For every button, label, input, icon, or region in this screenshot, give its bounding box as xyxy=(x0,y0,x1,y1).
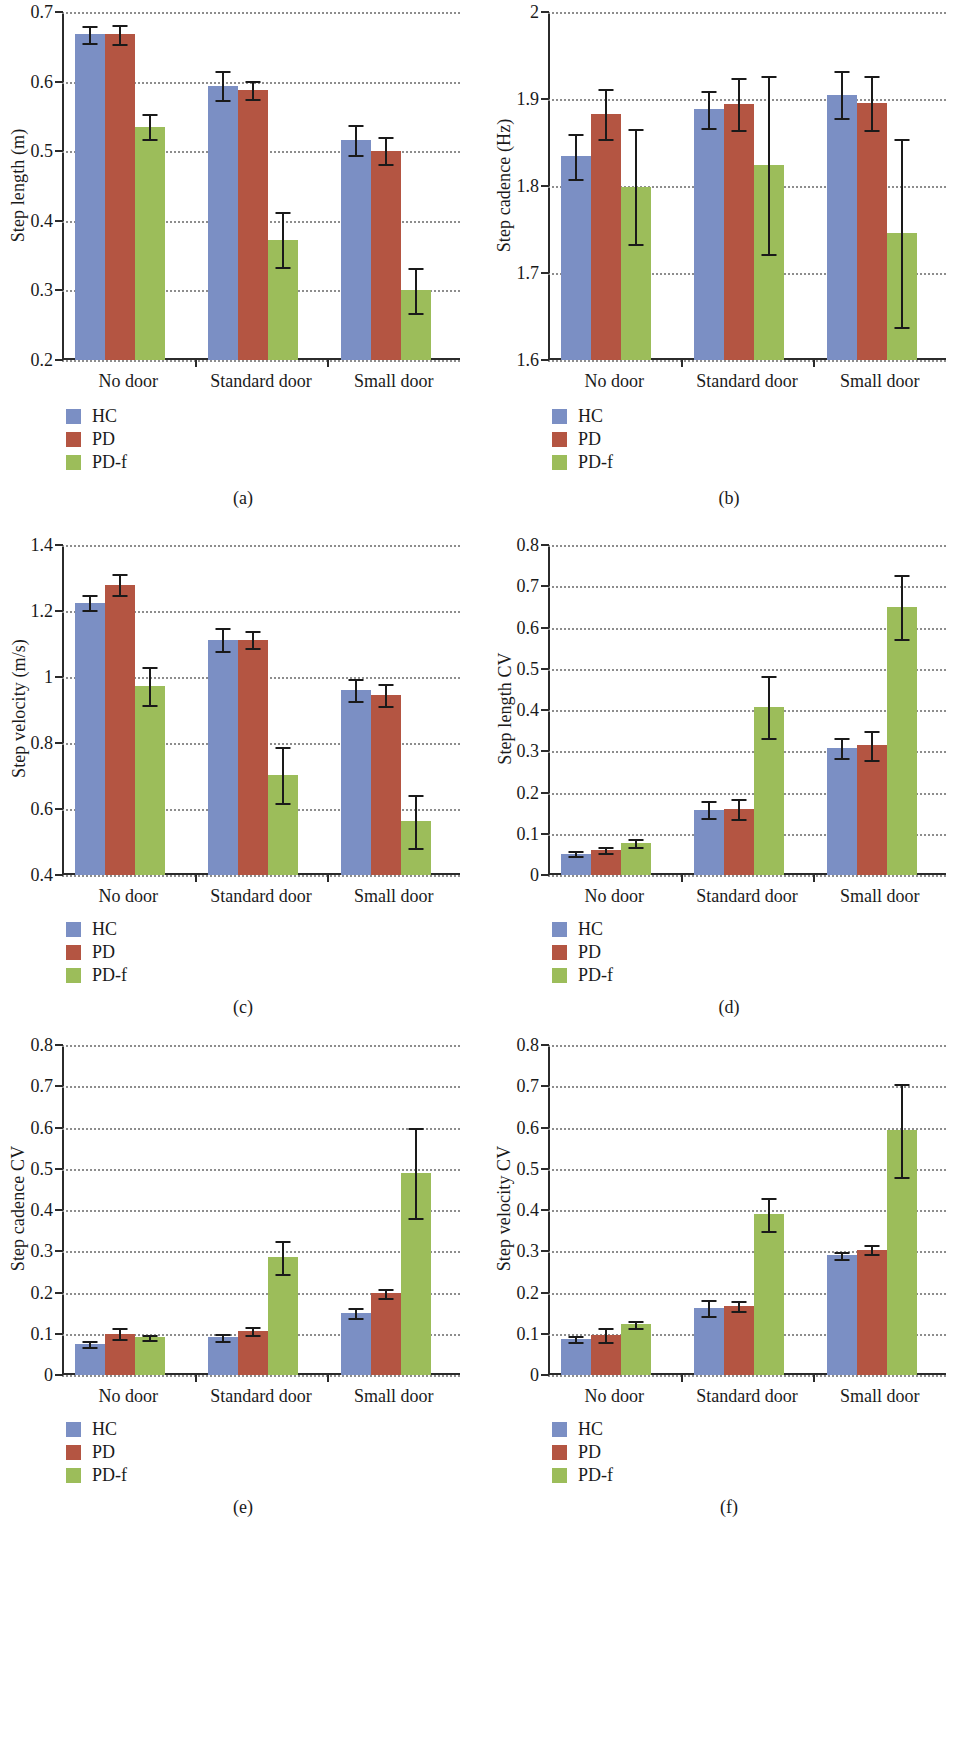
legend-swatch-pdf xyxy=(66,968,81,983)
error-bar-cap-top xyxy=(732,799,747,801)
legend-item-pdf: PD-f xyxy=(66,964,127,987)
y-tick-label: 0.6 xyxy=(31,799,54,820)
error-bar xyxy=(415,1128,417,1219)
error-bar-cap-bottom xyxy=(216,651,231,653)
error-bar-cap-bottom xyxy=(378,164,393,166)
error-bar-cap-bottom xyxy=(143,139,158,141)
error-bar-cap-bottom xyxy=(864,130,879,132)
y-tick-mark xyxy=(55,220,63,222)
error-bar-cap-top xyxy=(378,684,393,686)
error-bar xyxy=(149,114,151,139)
y-tick-label: 0 xyxy=(44,1365,53,1386)
bar-slot xyxy=(561,545,591,875)
bar-slot xyxy=(724,545,754,875)
error-bar xyxy=(282,1241,284,1274)
bar-hc xyxy=(827,748,857,875)
x-category-label: Standard door xyxy=(696,1386,797,1407)
error-bar xyxy=(385,137,387,163)
error-bar-cap-bottom xyxy=(834,758,849,760)
bar-pd xyxy=(371,151,401,360)
error-bar xyxy=(149,667,151,705)
figure-grid: Step length (m) 0.20.30.40.50.60.7No doo… xyxy=(0,0,972,1754)
legend-swatch-pdf xyxy=(66,1468,81,1483)
y-tick-label: 0.6 xyxy=(517,1117,540,1138)
y-tick-mark xyxy=(541,627,549,629)
y-tick-label: 1.8 xyxy=(517,176,540,197)
bar-pdf xyxy=(135,1337,165,1375)
error-bar-cap-bottom xyxy=(246,648,261,650)
x-tick-mark xyxy=(195,874,197,882)
x-tick-mark xyxy=(813,1374,815,1382)
y-tick-label: 0.3 xyxy=(31,280,54,301)
legend-swatch-pd xyxy=(66,1445,81,1460)
bar-slot xyxy=(591,1045,621,1375)
error-bar-cap-bottom xyxy=(246,99,261,101)
y-tick-mark xyxy=(55,676,63,678)
panel-a-caption: (a) xyxy=(0,488,486,509)
error-bar-cap-bottom xyxy=(599,1342,614,1344)
bar-slot xyxy=(724,12,754,360)
gridline xyxy=(548,1375,946,1377)
y-tick-label: 0.8 xyxy=(31,1035,54,1056)
error-bar xyxy=(119,25,121,44)
bar-slot xyxy=(105,545,135,875)
bar-hc xyxy=(341,690,371,875)
x-tick-mark xyxy=(195,1374,197,1382)
y-tick-label: 1.7 xyxy=(517,263,540,284)
error-bar-cap-bottom xyxy=(599,139,614,141)
y-tick-mark xyxy=(55,808,63,810)
legend-label-pdf: PD-f xyxy=(92,965,127,986)
bar-hc xyxy=(561,156,591,360)
error-bar xyxy=(708,801,710,818)
bar-pd xyxy=(238,1331,268,1375)
panel-d-legend: HC PD PD-f xyxy=(552,918,613,987)
y-tick-label: 0.7 xyxy=(517,576,540,597)
y-tick-label: 1 xyxy=(44,667,53,688)
error-bar-cap-bottom xyxy=(569,179,584,181)
legend-swatch-pd xyxy=(66,945,81,960)
error-bar-cap-top xyxy=(864,76,879,78)
y-tick-label: 0.1 xyxy=(517,823,540,844)
error-bar-cap-bottom xyxy=(113,1339,128,1341)
error-bar-cap-top xyxy=(348,125,363,127)
bar-hc xyxy=(827,1255,857,1375)
x-category-label: No door xyxy=(99,1386,159,1407)
y-tick-mark xyxy=(55,1209,63,1211)
y-tick-mark xyxy=(55,289,63,291)
legend-swatch-pdf xyxy=(552,1468,567,1483)
legend-item-hc: HC xyxy=(66,1418,127,1441)
x-category-label: Small door xyxy=(840,371,920,392)
y-tick-mark xyxy=(55,1085,63,1087)
y-tick-label: 0.3 xyxy=(517,741,540,762)
bar-slot xyxy=(857,545,887,875)
legend-swatch-hc xyxy=(552,922,567,937)
y-tick-label: 0.4 xyxy=(517,700,540,721)
error-bar-cap-top xyxy=(276,747,291,749)
y-tick-label: 0.5 xyxy=(31,1158,54,1179)
y-tick-label: 0.2 xyxy=(31,350,54,371)
bar-slot xyxy=(75,12,105,360)
error-bar xyxy=(841,71,843,118)
error-bar xyxy=(738,799,740,820)
bar-slot xyxy=(827,1045,857,1375)
legend-label-hc: HC xyxy=(578,1419,603,1440)
error-bar-cap-top xyxy=(408,1128,423,1130)
bar-slot xyxy=(401,1045,431,1375)
y-tick-mark xyxy=(55,1292,63,1294)
panel-e-plot: 00.10.20.30.40.50.60.70.8No doorStandard… xyxy=(62,1045,460,1375)
error-bar-cap-top xyxy=(732,78,747,80)
y-tick-label: 0.8 xyxy=(517,535,540,556)
error-bar-cap-bottom xyxy=(216,100,231,102)
bar-hc xyxy=(827,95,857,360)
y-tick-label: 0.5 xyxy=(517,1158,540,1179)
error-bar xyxy=(355,679,357,701)
error-bar-cap-bottom xyxy=(702,1316,717,1318)
error-bar-cap-bottom xyxy=(762,738,777,740)
legend-item-hc: HC xyxy=(552,918,613,941)
error-bar-cap-bottom xyxy=(834,118,849,120)
y-tick-label: 0.4 xyxy=(31,1200,54,1221)
y-tick-mark xyxy=(541,98,549,100)
legend-item-pd: PD xyxy=(66,941,127,964)
legend-swatch-pd xyxy=(552,432,567,447)
y-tick-label: 1.2 xyxy=(31,601,54,622)
